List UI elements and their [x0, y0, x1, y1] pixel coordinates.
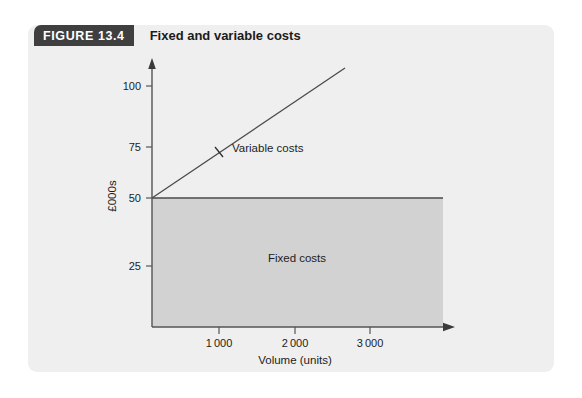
y-tick-label-100: 100: [123, 80, 141, 92]
y-tick-label-50: 50: [129, 192, 141, 204]
x-tick-label-1000: 1 000: [206, 337, 233, 349]
x-tick-label-3000: 3 000: [357, 337, 384, 349]
x-axis-title: Volume (units): [258, 354, 332, 366]
y-tick-label-75: 75: [129, 141, 141, 153]
chart-plot-area: 100 75 50 25 1 000 2 000 3 000 Volume (u…: [28, 25, 554, 372]
figure-root: FIGURE 13.4 Fixed and variable costs: [0, 0, 582, 398]
variable-costs-line: [152, 68, 345, 198]
y-axis-arrow-icon: [148, 58, 156, 69]
y-axis-title: £000s: [106, 180, 118, 212]
variable-costs-label: Variable costs: [232, 142, 304, 154]
chart-svg: 100 75 50 25 1 000 2 000 3 000 Volume (u…: [28, 25, 554, 372]
x-axis-arrow-icon: [443, 323, 455, 331]
y-tick-label-25: 25: [129, 260, 141, 272]
fixed-costs-label: Fixed costs: [268, 252, 326, 264]
x-tick-label-2000: 2 000: [282, 337, 309, 349]
